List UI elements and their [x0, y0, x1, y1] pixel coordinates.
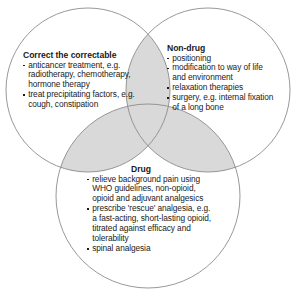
group-title-non-drug: Non-drug — [167, 43, 295, 53]
bullet-correct-line: cough, constipation — [23, 100, 163, 110]
bullet-drug-line: spinal analgesia — [87, 244, 247, 254]
group-drug: Drug relieve background pain usingWHO gu… — [87, 164, 247, 254]
bullet-list-correct-the-correctable: anticancer treatment, e.g.radiotherapy, … — [23, 61, 163, 111]
bullet-list-drug: relieve background pain usingWHO guideli… — [87, 175, 247, 254]
bullet-list-non-drug: positioningmodification to way of lifean… — [167, 54, 295, 113]
venn-diagram: Correct the correctable anticancer treat… — [0, 0, 297, 299]
bullet-nondrug-line: of a long bone — [167, 103, 295, 113]
group-non-drug: Non-drug positioningmodification to way … — [167, 43, 295, 113]
group-title-correct-the-correctable: Correct the correctable — [23, 50, 163, 60]
group-correct-the-correctable: Correct the correctable anticancer treat… — [23, 50, 163, 110]
group-title-drug: Drug — [87, 164, 195, 174]
